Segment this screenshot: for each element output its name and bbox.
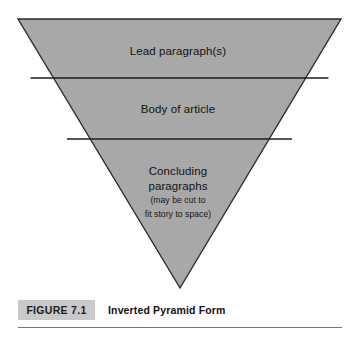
band-label-concluding: Concluding paragraphs (may be cut to fit… xyxy=(0,164,356,220)
band-label-lead: Lead paragraph(s) xyxy=(0,45,356,59)
band-label-concluding-line1: Concluding xyxy=(0,164,356,179)
band-label-body: Body of article xyxy=(0,103,356,117)
figure-number-label: FIGURE 7.1 xyxy=(26,304,86,316)
caption-divider-rule xyxy=(18,327,342,328)
figure-root: Lead paragraph(s) Body of article Conclu… xyxy=(0,0,356,345)
figure-title: Inverted Pyramid Form xyxy=(108,304,226,316)
figure-number-badge: FIGURE 7.1 xyxy=(18,300,95,320)
figure-caption: FIGURE 7.1 Inverted Pyramid Form xyxy=(18,299,342,320)
band-label-concluding-line2: paragraphs xyxy=(0,179,356,194)
band-note-concluding-line1: (may be cut to xyxy=(0,195,356,206)
pyramid-triangle xyxy=(18,19,341,288)
inverted-pyramid-diagram: Lead paragraph(s) Body of article Conclu… xyxy=(0,0,356,300)
band-note-concluding-line2: fit story to space) xyxy=(0,209,356,220)
